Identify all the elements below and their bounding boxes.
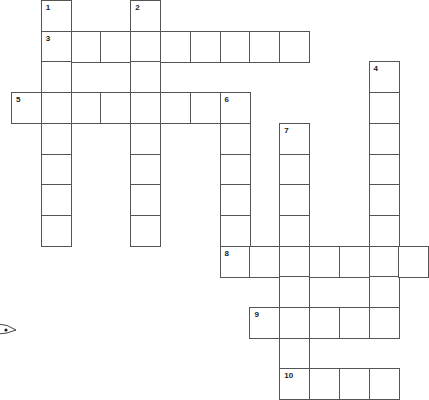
- crossword-cell[interactable]: [279, 215, 310, 247]
- crossword-cell[interactable]: 7: [279, 123, 310, 155]
- crossword-cell[interactable]: 9: [249, 307, 280, 339]
- crossword-cell[interactable]: [190, 31, 221, 63]
- crossword-cell[interactable]: [41, 61, 72, 93]
- clue-number: 9: [254, 311, 258, 319]
- crossword-cell[interactable]: [279, 154, 310, 186]
- crossword-cell[interactable]: [41, 154, 72, 186]
- crossword-cell[interactable]: [249, 31, 280, 63]
- crossword-cell[interactable]: [279, 31, 310, 63]
- crossword-cell[interactable]: [100, 92, 131, 124]
- clue-number: 2: [135, 4, 139, 12]
- crossword-cell[interactable]: 3: [41, 31, 72, 63]
- crossword-cell[interactable]: [220, 154, 251, 186]
- crossword-cell[interactable]: 5: [11, 92, 42, 124]
- crossword-cell[interactable]: [279, 184, 310, 216]
- crossword-cell[interactable]: [309, 307, 340, 339]
- clue-number: 4: [374, 65, 378, 73]
- crossword-cell[interactable]: 4: [369, 61, 400, 93]
- crossword-cell[interactable]: [279, 276, 310, 308]
- crossword-cell[interactable]: [220, 123, 251, 155]
- crossword-cell[interactable]: [369, 246, 400, 278]
- crossword-cell[interactable]: [369, 276, 400, 308]
- crossword-cell[interactable]: [130, 184, 161, 216]
- crossword-cell[interactable]: [130, 215, 161, 247]
- crossword-cell[interactable]: [160, 92, 191, 124]
- crossword-cell[interactable]: [339, 307, 370, 339]
- clue-number: 10: [284, 372, 293, 380]
- clue-number: 8: [225, 250, 229, 258]
- crossword-cell[interactable]: [71, 92, 102, 124]
- clue-number: 1: [46, 4, 50, 12]
- crossword-cell[interactable]: [41, 184, 72, 216]
- crossword-cell[interactable]: [190, 92, 221, 124]
- crossword-cell[interactable]: [130, 61, 161, 93]
- crossword-cell[interactable]: [130, 31, 161, 63]
- crossword-cell[interactable]: [249, 246, 280, 278]
- clue-number: 5: [16, 96, 20, 104]
- crossword-cell[interactable]: [130, 92, 161, 124]
- crossword-cell[interactable]: 10: [279, 368, 310, 400]
- crossword-cell[interactable]: [220, 215, 251, 247]
- crossword-cell[interactable]: [398, 246, 429, 278]
- crossword-cell[interactable]: [41, 92, 72, 124]
- crossword-cell[interactable]: [309, 246, 340, 278]
- crossword-cell[interactable]: 8: [220, 246, 251, 278]
- crossword-cell[interactable]: [339, 246, 370, 278]
- crossword-cell[interactable]: [71, 31, 102, 63]
- crossword-cell[interactable]: [369, 215, 400, 247]
- crossword-cell[interactable]: [130, 154, 161, 186]
- crossword-cell[interactable]: [279, 338, 310, 370]
- crossword-cell[interactable]: [41, 215, 72, 247]
- crossword-cell[interactable]: [369, 92, 400, 124]
- crossword-cell[interactable]: [41, 123, 72, 155]
- crossword-cell[interactable]: 1: [41, 0, 72, 32]
- crossword-cell[interactable]: [130, 123, 161, 155]
- crossword-cell[interactable]: 2: [130, 0, 161, 32]
- crossword-cell[interactable]: [160, 31, 191, 63]
- crossword-cell[interactable]: 6: [220, 92, 251, 124]
- crossword-cell[interactable]: [369, 307, 400, 339]
- crossword-cell[interactable]: [279, 246, 310, 278]
- clue-number: 3: [46, 35, 50, 43]
- crossword-cell[interactable]: [369, 368, 400, 400]
- crossword-cell[interactable]: [279, 307, 310, 339]
- crossword-cell[interactable]: [309, 368, 340, 400]
- crossword-cell[interactable]: [369, 184, 400, 216]
- crossword-cell[interactable]: [339, 368, 370, 400]
- eye-doodle-icon: [0, 320, 18, 340]
- crossword-cell[interactable]: [220, 184, 251, 216]
- clue-number: 6: [225, 96, 229, 104]
- clue-number: 7: [284, 127, 288, 135]
- crossword-cell[interactable]: [220, 31, 251, 63]
- crossword-cell[interactable]: [369, 154, 400, 186]
- crossword-cell[interactable]: [369, 123, 400, 155]
- crossword-cell[interactable]: [100, 31, 131, 63]
